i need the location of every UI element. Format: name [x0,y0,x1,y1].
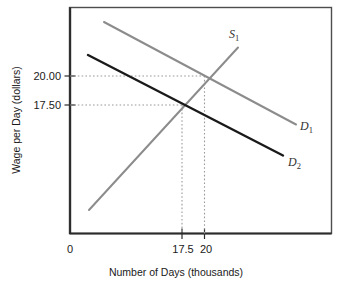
demand-curve-1-label-letter: D [299,119,309,133]
demand-curve-1-label-subscript: 1 [309,125,313,135]
y-axis-title: Wage per Day (dollars) [10,66,22,174]
chart-canvas: 20.00 17.50 0 17.5 20 Number of Days (th… [0,0,342,283]
chart-background [0,0,342,283]
x-tick-label-20: 20 [200,243,212,255]
supply-curve-label-subscript: 1 [235,33,239,43]
demand-curve-2-label-subscript: 2 [297,161,301,171]
x-axis-title: Number of Days (thousands) [109,266,243,278]
demand-curve-2-label-letter: D [287,155,297,169]
y-tick-label-17-50: 17.50 [33,99,61,111]
y-tick-label-20-00: 20.00 [33,70,61,82]
x-tick-label-17-5: 17.5 [172,243,193,255]
wage-labor-market-chart: 20.00 17.50 0 17.5 20 Number of Days (th… [0,0,342,283]
x-tick-label-0: 0 [67,243,73,255]
